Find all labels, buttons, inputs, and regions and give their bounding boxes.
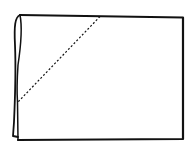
paper-fold-diagram [0,0,192,150]
sheet-outline [18,15,183,140]
folded-edge-outer [13,15,20,137]
fold-line-dashed [18,17,100,103]
folded-edge-inner [17,15,21,140]
diagram-canvas [0,0,192,150]
